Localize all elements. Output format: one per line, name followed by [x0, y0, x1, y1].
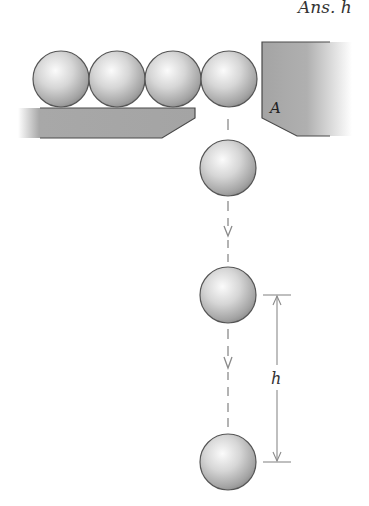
down-arrow-icon — [224, 357, 232, 368]
ball-3 — [145, 51, 201, 107]
ball-falling-3 — [200, 434, 256, 490]
ball-falling-2 — [200, 267, 256, 323]
shelf-balls — [33, 51, 257, 107]
ball-1 — [33, 51, 89, 107]
height-label: h — [271, 369, 281, 388]
shelf — [18, 108, 195, 138]
block-a — [262, 42, 352, 136]
ball-2 — [89, 51, 145, 107]
ball-falling-1 — [200, 140, 256, 196]
block-a-label: A — [268, 99, 281, 117]
down-arrow-icon — [224, 226, 232, 236]
ball-drop-diagram: A h — [0, 0, 369, 506]
ball-4 — [201, 51, 257, 107]
falling-balls — [200, 140, 256, 490]
